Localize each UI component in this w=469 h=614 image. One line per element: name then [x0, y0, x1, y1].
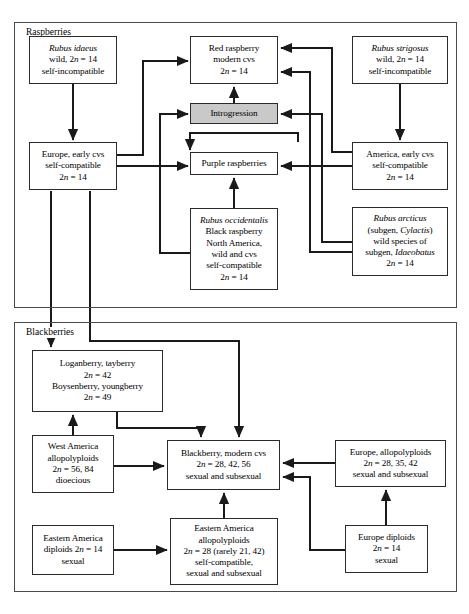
node-rubus-arcticus: Rubus arcticus(subgen, Cylactis)wild spe… [352, 207, 448, 276]
node-rubus-occidentalis: Rubus occidentalisBlack raspberryNorth A… [190, 208, 278, 290]
node-line: Boysenberry, youngberry [35, 381, 160, 392]
node-line: 2n = 14 [32, 172, 114, 183]
node-line: sexual and subsexual [338, 469, 443, 480]
node-eastern-america-diploids: Eastern Americadiploids 2n = 14sexual [32, 525, 114, 575]
node-line: modern cvs [193, 54, 275, 65]
node-introgression-text: Introgression [191, 108, 277, 119]
node-eastern-america-allopolyploids-text: Eastern Americaallopolyploids2n = 28 (ra… [171, 523, 277, 579]
node-purple-raspberries: Purple raspberries [190, 152, 278, 175]
node-line: dioecious [35, 475, 111, 486]
node-line: wild, 2n = 14 [355, 54, 445, 65]
node-rubus-strigosus-text: Rubus strigosuswild, 2n = 14self-incompa… [353, 43, 447, 77]
node-line: diploids 2n = 14 [35, 544, 111, 555]
node-line: 2n = 14 [355, 258, 445, 269]
node-line: self-compatible [193, 260, 275, 271]
node-america-early-cvs-text: America, early cvsself-compatible2n = 14 [353, 149, 447, 183]
node-line: allopolyploids [173, 535, 275, 546]
node-line: Loganberry, tayberry [35, 358, 160, 369]
node-red-raspberry-modern-cvs-text: Red raspberrymodern cvs2n = 14 [191, 43, 277, 77]
node-line: 2n = 14 [348, 543, 425, 554]
node-west-america-allopolyploids-text: West Americaallopolyploids2n = 56, 84dio… [33, 441, 113, 486]
node-eastern-america-diploids-text: Eastern Americadiploids 2n = 14sexual [33, 533, 113, 567]
node-line: self-compatible [355, 160, 445, 171]
node-line: allopolyploids [35, 453, 111, 464]
node-line: 2n = 14 [355, 172, 445, 183]
node-line: (subgen, Cylactis) [355, 225, 445, 236]
node-line: Eastern America [173, 523, 275, 534]
node-line: self-compatible, [173, 557, 275, 568]
node-rubus-strigosus: Rubus strigosuswild, 2n = 14self-incompa… [352, 36, 448, 84]
node-line: Rubus occidentalis [193, 215, 275, 226]
node-line: 2n = 56, 84 [35, 464, 111, 475]
node-line: Red raspberry [193, 43, 275, 54]
node-line: Rubus arcticus [355, 213, 445, 224]
node-line: wild, 2n = 14 [32, 54, 114, 65]
node-line: sexual [35, 556, 111, 567]
node-blackberry-modern-cvs: Blackberry, modern cvs2n = 28, 42, 56sex… [167, 440, 280, 490]
node-line: America, early cvs [355, 149, 445, 160]
node-eastern-america-allopolyploids: Eastern Americaallopolyploids2n = 28 (ra… [170, 518, 278, 585]
node-line: Europe diploids [348, 532, 425, 543]
node-line: Black raspberry [193, 226, 275, 237]
node-line: sexual and subsexual [170, 471, 277, 482]
node-europe-allopolyploids-text: Europe, allopolyploids2n = 28, 35, 42sex… [336, 447, 445, 481]
node-line: sexual [348, 555, 425, 566]
node-line: Rubus idaeus [32, 43, 114, 54]
node-line: 2n = 14 [193, 272, 275, 283]
panel-blackberries-label: Blackberries [24, 327, 76, 338]
node-line: 2n = 28, 35, 42 [338, 458, 443, 469]
node-rubus-occidentalis-text: Rubus occidentalisBlack raspberryNorth A… [191, 215, 277, 283]
node-line: self-incompatible [355, 66, 445, 77]
node-line: sexual and subsexual [173, 568, 275, 579]
node-line: Europe, early cvs [32, 149, 114, 160]
node-rubus-idaeus-text: Rubus idaeuswild, 2n = 14self-incompatib… [30, 43, 116, 77]
node-line: 2n = 28, 42, 56 [170, 459, 277, 470]
node-loganberry-tayberry: Loganberry, tayberry2n = 42Boysenberry, … [32, 350, 163, 412]
node-europe-early-cvs-text: Europe, early cvsself-compatible2n = 14 [30, 149, 116, 183]
node-line: North America, [193, 238, 275, 249]
node-line: Purple raspberries [193, 158, 275, 169]
node-europe-diploids-text: Europe diploids2n = 14sexual [346, 532, 427, 566]
node-line: 2n = 42 [35, 370, 160, 381]
node-line: self-compatible [32, 160, 114, 171]
node-rubus-idaeus: Rubus idaeuswild, 2n = 14self-incompatib… [29, 36, 117, 84]
node-europe-diploids: Europe diploids2n = 14sexual [345, 525, 428, 573]
node-line: Introgression [193, 108, 275, 119]
node-red-raspberry-modern-cvs: Red raspberrymodern cvs2n = 14 [190, 36, 278, 84]
node-line: 2n = 28 (rarely 21, 42) [173, 546, 275, 557]
node-line: subgen, Idaeobatus [355, 247, 445, 258]
node-introgression: Introgression [190, 103, 278, 124]
node-blackberry-modern-cvs-text: Blackberry, modern cvs2n = 28, 42, 56sex… [168, 448, 279, 482]
node-europe-early-cvs: Europe, early cvsself-compatible2n = 14 [29, 142, 117, 190]
node-europe-allopolyploids: Europe, allopolyploids2n = 28, 35, 42sex… [335, 440, 446, 487]
node-line: wild species of [355, 236, 445, 247]
node-america-early-cvs: America, early cvsself-compatible2n = 14 [352, 142, 448, 190]
node-line: 2n = 14 [193, 66, 275, 77]
node-line: 2n = 49 [35, 392, 160, 403]
node-west-america-allopolyploids: West Americaallopolyploids2n = 56, 84dio… [32, 435, 114, 493]
node-line: Blackberry, modern cvs [170, 448, 277, 459]
node-line: Rubus strigosus [355, 43, 445, 54]
node-loganberry-tayberry-text: Loganberry, tayberry2n = 42Boysenberry, … [33, 358, 162, 403]
node-line: wild and cvs [193, 249, 275, 260]
node-rubus-arcticus-text: Rubus arcticus(subgen, Cylactis)wild spe… [353, 213, 447, 269]
node-line: Europe, allopolyploids [338, 447, 443, 458]
node-line: self-incompatible [32, 66, 114, 77]
node-purple-raspberries-text: Purple raspberries [191, 158, 277, 169]
figure-canvas: Raspberries Blackberries Rubus idaeuswil… [0, 0, 469, 614]
node-line: Eastern America [35, 533, 111, 544]
node-line: West America [35, 441, 111, 452]
